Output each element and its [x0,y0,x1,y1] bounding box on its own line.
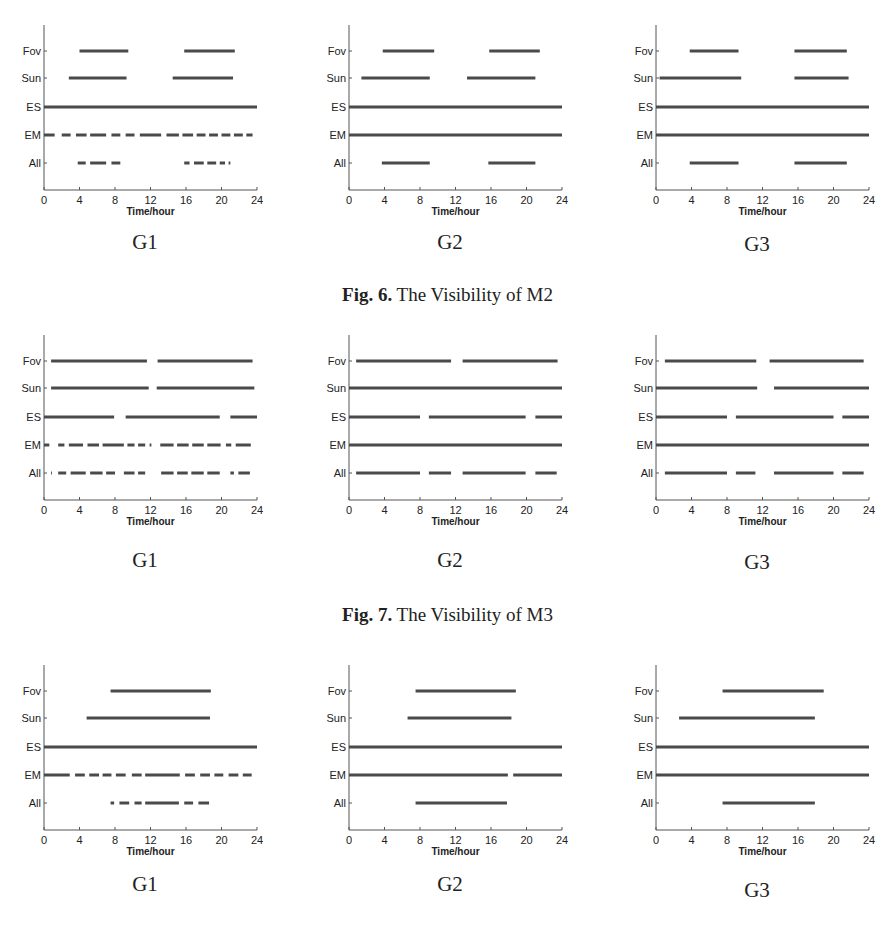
timeline-chart: 04812162024Time/hourFovSunESEMAll [305,660,595,860]
x-axis-label: Time/hour [431,206,479,217]
x-tick-label: 20 [827,834,839,846]
panel-label: G1 [0,548,290,573]
y-tick-label: EM [637,129,654,141]
timeline-chart: 04812162024Time/hourFovSunESEMAll [612,660,895,860]
y-tick-label: Fov [23,45,42,57]
x-axis-label: Time/hour [738,846,786,857]
y-tick-label: Sun [21,712,41,724]
x-tick-label: 24 [556,504,568,516]
x-tick-label: 20 [520,194,532,206]
x-tick-label: 4 [76,834,82,846]
panel-label: G1 [0,230,290,255]
y-tick-label: Fov [635,685,654,697]
x-tick-label: 16 [180,504,192,516]
y-tick-label: EM [330,769,347,781]
x-axis-label: Time/hour [126,846,174,857]
y-tick-label: EM [637,439,654,451]
x-tick-label: 12 [144,194,156,206]
y-tick-label: ES [331,741,346,753]
x-tick-label: 24 [556,194,568,206]
x-tick-label: 24 [863,194,875,206]
y-tick-label: All [641,467,653,479]
timeline-chart: 04812162024Time/hourFovSunESEMAll [305,330,595,530]
x-axis-label: Time/hour [126,206,174,217]
y-tick-label: All [334,797,346,809]
x-tick-label: 8 [724,834,730,846]
x-tick-label: 20 [520,504,532,516]
y-tick-label: Sun [326,72,346,84]
y-tick-label: Sun [633,382,653,394]
x-tick-label: 12 [144,504,156,516]
timeline-chart: 04812162024Time/hourFovSunESEMAll [612,330,895,530]
timeline-chart: 04812162024Time/hourFovSunESEMAll [0,660,290,860]
y-tick-label: All [334,157,346,169]
y-tick-label: Sun [326,712,346,724]
chart-panel-fig7-g1: 04812162024Time/hourFovSunESEMAll G1 [0,330,290,570]
caption-text: The Visibility of M3 [392,604,553,625]
y-tick-label: Fov [635,45,654,57]
panel-label: G2 [305,230,595,255]
x-tick-label: 24 [251,834,263,846]
x-tick-label: 16 [792,504,804,516]
x-tick-label: 8 [417,194,423,206]
x-tick-label: 4 [381,834,387,846]
x-tick-label: 0 [653,834,659,846]
y-tick-label: EM [637,769,654,781]
chart-panel-fig7-g2: 04812162024Time/hourFovSunESEMAll G2 [305,330,595,570]
x-tick-label: 16 [485,194,497,206]
y-tick-label: ES [331,411,346,423]
x-axis-label: Time/hour [126,516,174,527]
x-tick-label: 4 [76,194,82,206]
x-tick-label: 4 [688,504,694,516]
y-tick-label: All [641,797,653,809]
figure-caption-6: Fig. 6. The Visibility of M2 [0,284,895,306]
x-tick-label: 16 [792,194,804,206]
x-tick-label: 0 [653,194,659,206]
x-tick-label: 4 [76,504,82,516]
x-tick-label: 20 [520,834,532,846]
x-tick-label: 12 [756,504,768,516]
x-axis-label: Time/hour [431,846,479,857]
x-tick-label: 4 [381,504,387,516]
x-tick-label: 12 [449,194,461,206]
chart-panel-fig6-g3: 04812162024Time/hourFovSunESEMAll G3 [612,20,895,260]
chart-panel-fig6-g1: 04812162024Time/hourFovSunESEMAll G1 [0,20,290,260]
x-tick-label: 12 [144,834,156,846]
y-tick-label: Sun [326,382,346,394]
panel-label: G1 [0,872,290,897]
y-tick-label: ES [331,101,346,113]
x-tick-label: 16 [485,504,497,516]
x-tick-label: 4 [381,194,387,206]
panel-label: G3 [612,232,895,257]
x-tick-label: 24 [863,504,875,516]
x-tick-label: 0 [346,834,352,846]
y-tick-label: EM [330,129,347,141]
y-tick-label: Sun [21,72,41,84]
y-tick-label: All [334,467,346,479]
panel-label: G3 [612,878,895,903]
x-tick-label: 16 [180,194,192,206]
x-tick-label: 0 [346,194,352,206]
x-tick-label: 8 [724,194,730,206]
y-tick-label: Sun [21,382,41,394]
chart-panel-fig8-g2: 04812162024Time/hourFovSunESEMAll G2 [305,660,595,900]
y-tick-label: All [29,157,41,169]
x-tick-label: 0 [41,504,47,516]
x-tick-label: 24 [251,504,263,516]
x-tick-label: 24 [556,834,568,846]
y-tick-label: Sun [633,712,653,724]
chart-panel-fig7-g3: 04812162024Time/hourFovSunESEMAll G3 [612,330,895,570]
x-tick-label: 24 [251,194,263,206]
timeline-chart: 04812162024Time/hourFovSunESEMAll [612,20,895,220]
y-tick-label: Fov [328,45,347,57]
x-axis-label: Time/hour [738,516,786,527]
x-tick-label: 16 [485,834,497,846]
x-tick-label: 8 [112,834,118,846]
y-tick-label: Fov [23,685,42,697]
x-tick-label: 0 [653,504,659,516]
x-tick-label: 12 [449,834,461,846]
x-tick-label: 20 [215,834,227,846]
caption-number: Fig. 7. [342,604,392,625]
x-tick-label: 8 [112,194,118,206]
timeline-chart: 04812162024Time/hourFovSunESEMAll [0,330,290,530]
